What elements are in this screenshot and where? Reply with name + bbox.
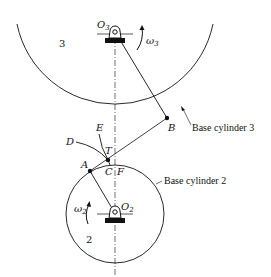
- omega2-arrowhead: [87, 201, 92, 207]
- label-o2: O2: [121, 201, 134, 214]
- label-omega2: ω2: [74, 203, 87, 216]
- gear-contact-diagram: ωO3 ω3 3 E B Base cylinder 3 D T A C F B…: [0, 0, 271, 277]
- radius-o3-b: [120, 40, 167, 118]
- label-c: C: [105, 166, 113, 177]
- label-omega3: ω3: [146, 35, 159, 48]
- leader-base-cylinder-2: [156, 181, 162, 184]
- label-e: E: [95, 122, 104, 133]
- leader-base-cylinder-3: [183, 109, 191, 125]
- label-o3: ωO3: [97, 19, 110, 32]
- omega2-arrow-icon: [86, 204, 89, 224]
- label-t: T: [105, 145, 113, 156]
- omega3-arrow-icon: [137, 27, 142, 50]
- label-body-3: 3: [59, 38, 65, 49]
- point-b: [165, 116, 169, 120]
- point-a: [88, 169, 92, 173]
- label-a: A: [80, 159, 88, 170]
- label-base-cylinder-3: Base cylinder 3: [192, 122, 254, 133]
- point-t: [106, 158, 110, 162]
- label-body-2: 2: [86, 234, 92, 245]
- label-f: F: [116, 166, 125, 177]
- label-base-cylinder-2: Base cylinder 2: [164, 175, 226, 186]
- leader-arrowhead-3: [181, 106, 185, 111]
- omega3-arrowhead: [140, 25, 145, 30]
- label-d: D: [65, 136, 74, 147]
- label-b: B: [167, 122, 175, 133]
